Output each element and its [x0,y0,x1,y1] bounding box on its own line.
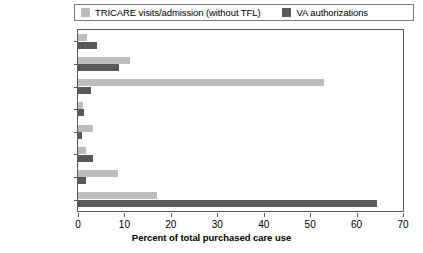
legend-item-va: VA authorizations [282,8,368,18]
bar [78,192,157,199]
x-axis-tick-label: 0 [58,219,98,231]
x-axis-tick-label: 30 [197,219,237,231]
bar-group: Primary care [78,75,403,98]
bar [78,87,91,94]
y-axis-tick [74,177,78,178]
bar [78,57,130,64]
x-axis-tick [310,213,311,217]
bar [78,132,82,139]
legend-item-tricare: TRICARE visits/admission (without TFL) [81,8,260,18]
bar-group: Oncology [78,98,403,121]
bar [78,200,377,207]
x-axis-tick-label: 10 [104,219,144,231]
bar [78,177,86,184]
x-axis-tick-label: 70 [383,219,423,231]
bar-group: OB/GYN [78,121,403,144]
bar [78,109,84,116]
bar [78,155,93,162]
y-axis-tick [74,64,78,65]
bar-group: Cardiology [78,143,403,166]
bar [78,42,97,49]
legend-swatch-tricare [81,8,90,17]
x-axis-tick [78,213,79,217]
y-axis-tick [74,109,78,110]
x-axis-tick [171,213,172,217]
bar-group: Mental health [78,166,403,189]
x-axis-tick [403,213,404,217]
y-axis-tick [74,41,78,42]
y-axis-tick [74,87,78,88]
bar [78,102,83,109]
x-axis-tick-label: 60 [337,219,377,231]
legend-label-va: VA authorizations [296,8,368,18]
x-axis-tick-label: 50 [290,219,330,231]
legend-swatch-va [282,8,291,17]
bar-group: Other [78,188,403,211]
bar [78,34,87,41]
bar [78,64,119,71]
x-axis-tick [357,213,358,217]
x-axis-tick-label: 40 [244,219,284,231]
bar [78,147,86,154]
y-axis-tick [74,200,78,201]
x-axis-tick [217,213,218,217]
chart-legend: TRICARE visits/admission (without TFL) V… [74,4,414,21]
bar [78,170,118,177]
y-axis-tick [74,132,78,133]
bar-group: Emergency [78,53,403,76]
bar-group: Inpatient [78,30,403,53]
bar [78,79,324,86]
legend-label-tricare: TRICARE visits/admission (without TFL) [95,8,260,18]
x-axis-tick-label: 20 [151,219,191,231]
chart-plot-frame: InpatientEmergencyPrimary careOncologyOB… [77,29,404,212]
bar [78,125,93,132]
x-axis-title: Percent of total purchased care use [0,232,423,243]
y-axis-tick [74,154,78,155]
chart-plot-area: InpatientEmergencyPrimary careOncologyOB… [78,30,403,211]
x-axis-tick [264,213,265,217]
x-axis-tick [124,213,125,217]
